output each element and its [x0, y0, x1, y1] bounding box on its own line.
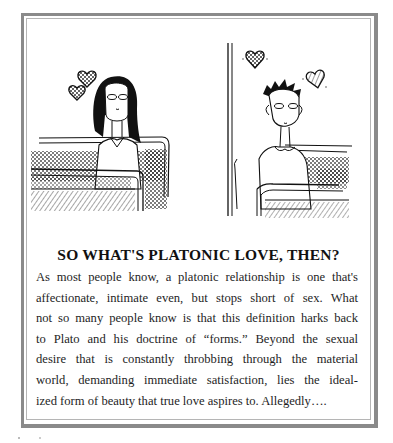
body-line: ized form of beauty that true love aspir…	[36, 391, 358, 412]
sidebar-body-text: As most people know, a platonic relation…	[36, 267, 358, 411]
heart-icon	[69, 86, 85, 100]
heart-icon	[78, 71, 96, 87]
body-line: not so many people know is that this def…	[36, 308, 358, 329]
left-panel-girl	[31, 71, 169, 211]
stray-print-marks	[17, 436, 47, 440]
body-line: As most people know, a platonic relation…	[36, 267, 358, 288]
sidebar-heading: SO WHAT'S PLATONIC LOVE, THEN?	[27, 246, 370, 264]
body-line: to Plato and his doctrine of “forms.” Be…	[36, 329, 358, 350]
heart-icon	[302, 69, 327, 89]
body-line: world, demanding immediate satisfaction,…	[36, 370, 358, 391]
heart-icon	[242, 51, 268, 68]
right-panel-boy	[228, 43, 352, 218]
cartoon-illustration	[27, 19, 370, 229]
body-line: affectionate, intimate even, but stops s…	[36, 288, 358, 309]
body-line: desire that is constantly throbbing thro…	[36, 349, 358, 370]
